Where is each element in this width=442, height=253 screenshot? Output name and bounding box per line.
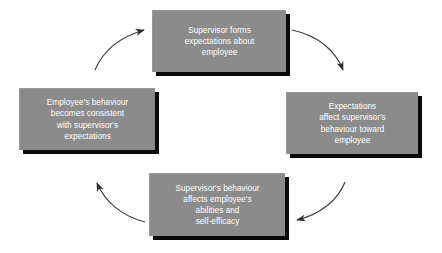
cycle-diagram: Supervisor forms expectations about empl… (0, 0, 442, 253)
arrow-right-to-bottom (297, 182, 345, 220)
node-right-label: Expectations affect supervisor's behavio… (319, 101, 386, 146)
arrow-top-to-right (292, 30, 343, 70)
node-supervisor-forms-expectations[interactable]: Supervisor forms expectations about empl… (152, 10, 286, 72)
node-supervisor-behaviour-affects-employee[interactable]: Supervisor's behaviour affects employee'… (149, 173, 285, 236)
arrow-bottom-to-left (97, 183, 145, 222)
arrow-left-to-top (95, 30, 144, 70)
node-expectations-affect-supervisor-behaviour[interactable]: Expectations affect supervisor's behavio… (286, 92, 418, 154)
node-left-label: Employee's behaviour becomes consistent … (47, 97, 128, 142)
node-top-label: Supervisor forms expectations about empl… (185, 25, 255, 59)
node-employee-behaviour-becomes-consistent[interactable]: Employee's behaviour becomes consistent … (19, 88, 155, 150)
node-bottom-label: Supervisor's behaviour affects employee'… (175, 183, 259, 228)
